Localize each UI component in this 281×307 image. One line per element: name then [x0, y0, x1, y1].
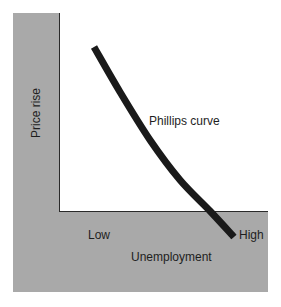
x-tick-low: Low — [88, 229, 110, 241]
y-axis-label: Price rise — [30, 88, 42, 138]
phillips-curve-figure: Price rise Phillips curve Low High Unemp… — [0, 0, 281, 307]
x-tick-high: High — [239, 229, 264, 241]
x-axis-label: Unemployment — [131, 251, 212, 263]
curve-annotation: Phillips curve — [149, 115, 220, 127]
